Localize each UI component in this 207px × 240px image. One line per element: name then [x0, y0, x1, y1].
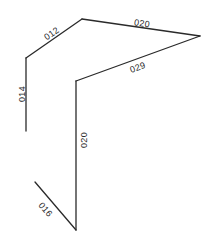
segment-label-s029: 029	[129, 60, 147, 75]
segment-label-s016: 016	[37, 200, 55, 219]
label-group: 014012020029020016	[17, 17, 150, 219]
segment-label-s014: 014	[17, 86, 27, 102]
segment-label-s012: 012	[42, 25, 61, 42]
diagram-canvas: 014012020029020016	[0, 0, 207, 240]
segment-label-s020b: 020	[79, 132, 89, 148]
segment-label-s020a: 020	[134, 17, 151, 29]
segment-s029	[76, 36, 200, 81]
segment-group	[26, 19, 200, 230]
